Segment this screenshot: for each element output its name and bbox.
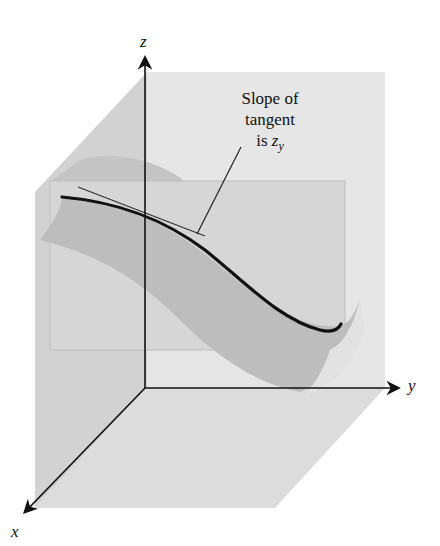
y-axis-label: y	[408, 376, 416, 396]
annotation-line-1: Slope of	[210, 88, 330, 109]
figure-svg	[0, 0, 440, 546]
y-subscript: y	[278, 139, 283, 153]
x-axis-label: x	[11, 522, 19, 542]
z-axis-label: z	[140, 32, 147, 52]
annotation-line-3: is zy	[210, 130, 330, 157]
diagram-canvas: z y x Slope of tangent is zy	[0, 0, 440, 546]
annotation-line-2: tangent	[210, 109, 330, 130]
slope-annotation: Slope of tangent is zy	[210, 88, 330, 157]
